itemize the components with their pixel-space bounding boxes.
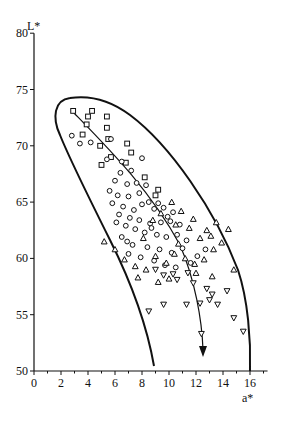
triangle-up-marker: [186, 225, 192, 230]
triangle-up-marker: [101, 239, 107, 244]
circle-marker: [175, 232, 180, 237]
x-tick-label: 2: [58, 376, 64, 390]
circle-marker: [133, 227, 138, 232]
triangle-up-marker: [155, 279, 161, 284]
x-tick-label: 14: [217, 376, 229, 390]
triangle-down-marker: [161, 273, 167, 278]
circle-marker: [149, 226, 154, 231]
triangle-up-marker: [219, 240, 225, 245]
circle-marker: [144, 183, 149, 188]
triangle-down-marker: [215, 302, 221, 307]
triangle-up-marker: [140, 235, 146, 240]
triangle-down-marker: [161, 302, 167, 307]
circle-marker: [127, 215, 132, 220]
triangle-up-marker: [150, 217, 156, 222]
y-axis-label: L*: [27, 19, 40, 33]
square-marker: [156, 187, 161, 192]
square-marker: [90, 108, 95, 113]
circle-marker: [115, 193, 120, 198]
circle-marker: [69, 133, 74, 138]
circle-marker: [156, 201, 161, 206]
data-points: [69, 108, 246, 336]
triangle-up-marker: [226, 226, 232, 231]
circle-marker: [117, 212, 122, 217]
circle-marker: [126, 194, 131, 199]
circle-marker: [137, 191, 142, 196]
x-tick-label: 12: [190, 376, 202, 390]
y-tick-label: 75: [16, 83, 28, 97]
circle-marker: [171, 210, 176, 215]
triangle-down-marker: [190, 281, 196, 286]
y-tick-label: 60: [16, 251, 28, 265]
circle-marker: [195, 254, 200, 259]
circle-marker: [113, 178, 118, 183]
triangle-up-marker: [208, 233, 214, 238]
y-tick-label: 65: [16, 195, 28, 209]
square-marker: [142, 175, 147, 180]
square-marker: [129, 150, 134, 155]
envelope-curve: [55, 97, 250, 371]
square-marker: [98, 143, 103, 148]
triangle-up-marker: [182, 256, 188, 261]
triangle-up-marker: [143, 267, 149, 272]
y-tick-label: 55: [16, 308, 28, 322]
circle-marker: [78, 141, 83, 146]
triangle-up-marker: [211, 246, 217, 251]
triangle-up-marker: [153, 253, 159, 258]
x-tick-label: 4: [85, 376, 91, 390]
x-tick-label: 6: [112, 376, 118, 390]
triangle-up-marker: [122, 257, 128, 262]
triangle-down-marker: [231, 316, 237, 321]
circle-marker: [129, 168, 134, 173]
triangle-down-marker: [146, 309, 152, 314]
circle-marker: [152, 206, 157, 211]
triangle-up-marker: [201, 257, 207, 262]
x-axis: 0246810121416: [31, 371, 268, 390]
circle-marker: [118, 170, 123, 175]
y-axis: 50556065707580: [16, 26, 34, 378]
triangle-down-marker: [224, 289, 230, 294]
triangle-up-marker: [197, 235, 203, 240]
square-marker: [86, 114, 91, 119]
triangle-down-marker: [174, 277, 180, 282]
triangle-up-marker: [169, 199, 175, 204]
square-marker: [71, 108, 76, 113]
circle-marker: [105, 157, 110, 162]
triangle-up-marker: [176, 241, 182, 246]
triangle-down-marker: [199, 331, 205, 336]
circle-marker: [159, 220, 164, 225]
circle-marker: [88, 140, 93, 145]
triangle-down-marker: [170, 272, 176, 277]
triangle-down-marker: [207, 298, 213, 303]
x-axis-label: a*: [242, 391, 253, 405]
circle-marker: [123, 223, 128, 228]
triangle-up-marker: [193, 270, 199, 275]
circle-marker: [146, 200, 151, 205]
circle-marker: [119, 235, 124, 240]
triangle-down-marker: [153, 267, 159, 272]
square-marker: [99, 163, 104, 168]
circle-marker: [164, 235, 169, 240]
y-tick-label: 70: [16, 139, 28, 153]
circle-marker: [161, 205, 166, 210]
circle-marker: [154, 232, 159, 237]
circle-marker: [119, 159, 124, 164]
triangle-up-marker: [166, 276, 172, 281]
triangle-up-marker: [132, 263, 138, 268]
square-marker: [105, 125, 110, 130]
circle-marker: [142, 230, 147, 235]
trend-arrow: [74, 113, 207, 357]
circle-marker: [109, 137, 114, 142]
x-tick-label: 16: [244, 376, 256, 390]
triangle-up-marker: [231, 267, 237, 272]
circle-marker: [114, 220, 119, 225]
x-tick-label: 8: [139, 376, 145, 390]
circle-marker: [165, 214, 170, 219]
scatter-chart: 50556065707580 0246810121416 L* a*: [0, 0, 285, 421]
triangle-down-marker: [204, 286, 210, 291]
circle-marker: [140, 156, 145, 161]
circle-marker: [137, 218, 142, 223]
circle-marker: [184, 238, 189, 243]
circle-marker: [140, 202, 145, 207]
circle-marker: [107, 188, 112, 193]
